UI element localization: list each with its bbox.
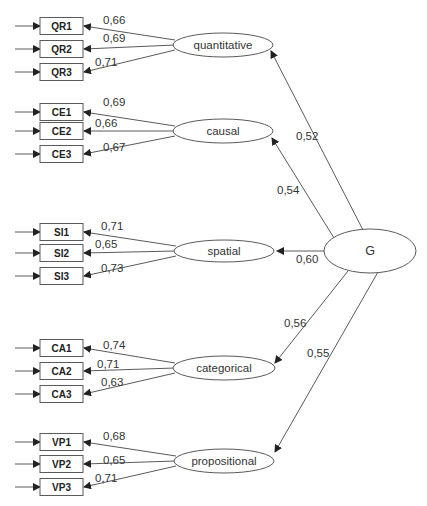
- factor-label: propositional: [191, 455, 256, 467]
- indicator-coefficient: 0,73: [101, 262, 123, 274]
- indicator-label: QR1: [51, 21, 72, 32]
- loading-arrow-propositional: [275, 272, 378, 452]
- loading-coefficient-causal: 0,54: [277, 184, 300, 196]
- indicator-arrow-QR2: [84, 45, 175, 49]
- loading-coefficient-spatial: 0,60: [296, 253, 318, 265]
- indicator-label: SI3: [54, 271, 69, 282]
- indicator-label: VP2: [52, 459, 71, 470]
- indicator-label: CA3: [51, 389, 71, 400]
- indicator-arrow-CA3: [84, 373, 175, 394]
- loading-coefficient-propositional: 0,55: [307, 347, 329, 359]
- factor-label: quantitative: [194, 39, 253, 51]
- indicator-coefficient: 0,66: [95, 117, 117, 129]
- loading-coefficient-quantitative: 0,52: [296, 130, 318, 142]
- indicator-arrow-VP2: [84, 461, 176, 464]
- indicator-coefficient: 0,65: [95, 238, 117, 250]
- indicator-label: CA1: [51, 343, 71, 354]
- indicator-arrow-SI2: [84, 251, 176, 253]
- indicator-coefficient: 0,66: [103, 14, 125, 26]
- indicator-label: QR2: [51, 44, 72, 55]
- factor-label: categorical: [196, 362, 252, 374]
- indicator-arrow-VP1: [84, 442, 176, 456]
- indicator-label: SI2: [54, 248, 69, 259]
- indicator-coefficient: 0,67: [103, 141, 125, 153]
- indicator-label: CE2: [52, 126, 72, 137]
- indicator-coefficient: 0,69: [103, 32, 125, 44]
- general-factor-label: G: [365, 244, 375, 258]
- indicator-coefficient: 0,65: [103, 454, 125, 466]
- indicator-coefficient: 0,69: [103, 96, 125, 108]
- indicator-label: CA2: [51, 366, 71, 377]
- factor-label: causal: [206, 125, 239, 137]
- indicator-coefficient: 0,71: [97, 358, 119, 370]
- indicator-label: QR3: [51, 67, 72, 78]
- loading-coefficient-categorical: 0,56: [284, 317, 306, 329]
- indicator-label: CE3: [52, 149, 72, 160]
- indicator-arrow-CE3: [84, 136, 175, 154]
- factor-label: spatial: [207, 245, 240, 257]
- indicator-label: CE1: [52, 107, 72, 118]
- indicator-label: VP1: [52, 437, 71, 448]
- indicator-arrow-SI3: [84, 256, 176, 276]
- indicator-coefficient: 0,63: [101, 376, 123, 388]
- indicator-arrow-QR1: [84, 26, 175, 40]
- indicator-label: VP3: [52, 482, 71, 493]
- indicator-coefficient: 0,74: [103, 339, 126, 351]
- indicator-coefficient: 0,71: [95, 472, 117, 484]
- sem-diagram: 0,52QR10,66QR20,69QR30,71quantitative0,5…: [0, 0, 427, 506]
- indicator-label: SI1: [54, 227, 69, 238]
- indicator-coefficient: 0,68: [103, 430, 125, 442]
- indicator-coefficient: 0,71: [95, 56, 117, 68]
- indicator-coefficient: 0,71: [101, 220, 123, 232]
